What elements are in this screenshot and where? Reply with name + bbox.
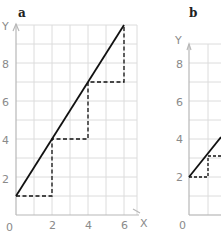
panel-a-y-tick-6: 6	[2, 96, 9, 109]
panel-b-axes	[187, 44, 221, 215]
panel-b-y-tick-4: 4	[176, 133, 183, 146]
panel-b-y-tick-8: 8	[176, 58, 183, 71]
panel-b: b Y 8 6 4 2 0	[174, 6, 221, 232]
panel-b-y-axis-label: Y	[174, 34, 182, 47]
panel-b-solid-line	[189, 137, 221, 177]
panel-b-y-tick-6: 6	[176, 96, 183, 109]
panel-a-origin: 0	[6, 221, 13, 234]
panel-a-x-axis-label: X	[140, 217, 148, 230]
panel-a-y-axis-label: Y	[1, 20, 9, 33]
panel-a: a Y X 8 6 4 2 0 2 4 6	[1, 6, 148, 234]
panel-b-y-tick-2: 2	[176, 171, 183, 184]
panel-a-y-tick-2: 2	[2, 173, 9, 186]
panel-b-dashed-steps	[189, 156, 221, 177]
panel-a-x-tick-4: 4	[85, 219, 92, 232]
panel-a-x-tick-6: 6	[121, 219, 128, 232]
panel-a-x-tick-2: 2	[49, 219, 56, 232]
panel-a-y-tick-4: 4	[2, 134, 9, 147]
panel-b-label: b	[189, 6, 197, 20]
panel-a-y-tick-8: 8	[2, 58, 9, 71]
panel-b-origin: 0	[179, 219, 186, 232]
panel-a-grid	[16, 25, 137, 215]
panel-a-label: a	[18, 6, 26, 20]
figure: a Y X 8 6 4 2 0 2 4 6 b	[0, 0, 221, 236]
panel-b-grid	[189, 44, 221, 215]
